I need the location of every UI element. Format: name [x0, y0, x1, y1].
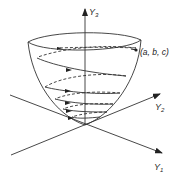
trajectory-back-1: [38, 47, 136, 57]
trajectory: [37, 47, 136, 119]
y2-label: Y2: [155, 102, 165, 113]
trajectory-front-3: [55, 99, 113, 104]
trajectory-front-5: [72, 117, 100, 118]
rim-front: [28, 40, 141, 50]
axes: [10, 9, 162, 155]
y3-label: Y3: [89, 7, 99, 18]
y1-label: Y1: [154, 162, 163, 173]
rim-back: [28, 33, 141, 42]
trajectory-front-1: [37, 58, 126, 76]
arrow-icon: [66, 68, 72, 72]
point-label: (a, b, c): [140, 47, 169, 57]
arrow-icon: [66, 109, 72, 113]
arrow-icon: [65, 89, 71, 93]
trajectory-back-2: [45, 74, 126, 87]
paraboloid-diagram: Y3 Y2 Y1 (a, b, c): [0, 0, 181, 178]
